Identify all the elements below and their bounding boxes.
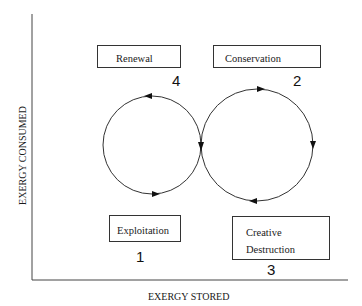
conservation-number: 2 <box>293 72 301 89</box>
creative-destruction-label-line2: Destruction <box>246 244 295 255</box>
renewal-label: Renewal <box>116 53 153 64</box>
arrow-right-side-down-icon <box>310 141 316 149</box>
right-loop-circle <box>201 89 313 201</box>
arrow-left-top-icon <box>144 93 152 99</box>
creative-destruction-box: Creative Destruction <box>232 216 330 260</box>
arrow-left-bottom-icon <box>152 191 160 197</box>
exploitation-label: Exploitation <box>117 225 169 236</box>
x-axis-label: EXERGY STORED <box>148 291 229 302</box>
renewal-box: Renewal <box>97 45 181 68</box>
y-axis-label: EXERGY CONSUMED <box>17 106 28 206</box>
renewal-number: 4 <box>172 72 180 89</box>
exploitation-number: 1 <box>136 248 144 265</box>
creative-destruction-number: 3 <box>267 261 275 278</box>
conservation-label: Conservation <box>225 53 281 64</box>
arrow-crossing-down-icon <box>198 142 204 151</box>
conservation-box: Conservation <box>213 45 321 68</box>
creative-destruction-label-line1: Creative <box>246 227 282 238</box>
arrow-right-bottom-icon <box>249 198 257 204</box>
arrow-right-top-icon <box>257 86 265 92</box>
exploitation-box: Exploitation <box>109 215 181 242</box>
left-loop-circle <box>103 96 201 194</box>
